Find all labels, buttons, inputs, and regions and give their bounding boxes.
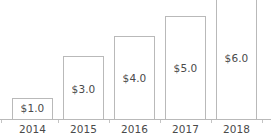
- x-tick-label-2014: 2014: [12, 123, 53, 135]
- bar-2016[interactable]: [114, 36, 155, 120]
- x-tick-label-2018: 2018: [216, 123, 257, 135]
- x-axis-tick: [160, 120, 161, 123]
- x-tick-label-2016: 2016: [114, 123, 155, 135]
- bar-chart: $1.0 $3.0 $4.0 $5.0 $6.0 2014 2015 2016 …: [0, 0, 271, 136]
- bar-2018[interactable]: [216, 0, 257, 120]
- x-tick-label-2017: 2017: [165, 123, 206, 135]
- x-axis-tick: [58, 120, 59, 123]
- x-axis-tick: [262, 120, 263, 123]
- x-axis-tick: [211, 120, 212, 123]
- x-tick-label-2015: 2015: [63, 123, 104, 135]
- bar-2015[interactable]: [63, 56, 104, 120]
- x-axis-tick: [109, 120, 110, 123]
- x-axis-tick: [1, 120, 2, 123]
- bar-2014[interactable]: [12, 98, 53, 120]
- x-axis-line: [0, 119, 271, 120]
- plot-area: $1.0 $3.0 $4.0 $5.0 $6.0: [0, 0, 271, 120]
- bar-2017[interactable]: [165, 16, 206, 120]
